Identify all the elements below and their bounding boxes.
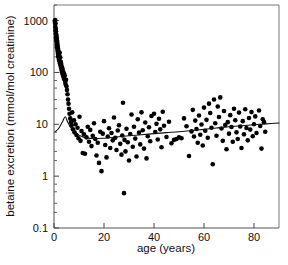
data-point bbox=[99, 169, 104, 174]
data-point bbox=[254, 131, 259, 136]
data-point bbox=[130, 144, 135, 149]
data-point bbox=[247, 116, 252, 121]
data-point bbox=[204, 118, 209, 123]
data-point bbox=[207, 101, 212, 106]
data-point bbox=[240, 119, 245, 124]
data-point bbox=[234, 130, 239, 135]
data-point bbox=[198, 132, 203, 137]
data-point bbox=[179, 136, 184, 141]
data-point bbox=[83, 151, 88, 156]
data-point bbox=[243, 107, 248, 112]
data-point bbox=[88, 128, 93, 133]
data-point bbox=[135, 117, 140, 122]
data-point bbox=[121, 100, 126, 105]
data-point bbox=[67, 106, 72, 111]
data-point bbox=[66, 101, 71, 106]
data-point bbox=[158, 127, 163, 132]
data-point bbox=[75, 125, 80, 130]
data-point bbox=[114, 148, 119, 153]
data-point bbox=[65, 88, 70, 93]
data-point bbox=[222, 109, 227, 114]
data-point bbox=[213, 121, 218, 126]
data-point bbox=[119, 152, 124, 157]
data-point bbox=[200, 143, 205, 148]
data-point bbox=[103, 143, 108, 148]
data-point bbox=[162, 123, 167, 128]
x-axis-major-ticks bbox=[54, 223, 254, 228]
data-point bbox=[197, 113, 202, 118]
data-point bbox=[134, 154, 139, 159]
scatter-plot: 0.11101001000 020406080 age (years) beta… bbox=[0, 0, 288, 265]
data-point bbox=[65, 92, 70, 97]
data-point bbox=[214, 134, 219, 139]
data-point bbox=[187, 154, 192, 159]
data-point bbox=[95, 140, 100, 145]
y-axis-tick-labels: 0.11101001000 bbox=[24, 15, 48, 234]
data-point bbox=[242, 132, 247, 137]
y-tick-label: 100 bbox=[30, 66, 48, 78]
data-point-group bbox=[52, 18, 267, 196]
data-point bbox=[157, 116, 162, 121]
data-point bbox=[115, 128, 120, 133]
data-point bbox=[78, 139, 83, 144]
data-point bbox=[139, 110, 144, 115]
data-point bbox=[109, 131, 114, 136]
data-point bbox=[155, 137, 160, 142]
data-point bbox=[53, 21, 58, 26]
data-point bbox=[164, 135, 169, 140]
data-point bbox=[224, 147, 229, 152]
data-point bbox=[218, 95, 223, 100]
data-point bbox=[232, 106, 237, 111]
data-point bbox=[235, 137, 240, 142]
data-point bbox=[112, 115, 117, 120]
y-axis-title: betaine excretion (mmol/mol creatinine) bbox=[4, 15, 16, 217]
data-point bbox=[192, 134, 197, 139]
data-point bbox=[245, 138, 250, 143]
data-point bbox=[148, 139, 153, 144]
data-point bbox=[209, 125, 214, 130]
y-tick-label: 10 bbox=[36, 118, 48, 130]
data-point bbox=[133, 136, 138, 141]
y-tick-label: 0.1 bbox=[33, 222, 48, 234]
data-point bbox=[94, 153, 99, 158]
data-point bbox=[205, 135, 210, 140]
data-point bbox=[117, 123, 122, 128]
data-point bbox=[129, 112, 134, 117]
data-point bbox=[142, 146, 147, 151]
data-point bbox=[147, 125, 152, 130]
data-point bbox=[225, 120, 230, 125]
data-point bbox=[140, 128, 145, 133]
data-point bbox=[108, 146, 113, 151]
data-point bbox=[215, 104, 220, 109]
data-point bbox=[239, 146, 244, 151]
x-axis-title: age (years) bbox=[137, 242, 195, 254]
data-point bbox=[143, 120, 148, 125]
data-point bbox=[64, 78, 69, 83]
data-point bbox=[154, 122, 159, 127]
figure-container: 0.11101001000 020406080 age (years) beta… bbox=[0, 0, 288, 265]
y-tick-label: 1000 bbox=[24, 15, 48, 27]
data-point bbox=[100, 131, 105, 136]
data-point bbox=[253, 114, 258, 119]
data-point bbox=[250, 134, 255, 139]
data-point bbox=[217, 115, 222, 120]
data-point bbox=[77, 114, 82, 119]
data-point bbox=[220, 139, 225, 144]
data-point bbox=[230, 139, 235, 144]
x-tick-label: 60 bbox=[198, 231, 210, 243]
data-point bbox=[228, 113, 233, 118]
data-point bbox=[92, 121, 97, 126]
data-point bbox=[159, 145, 164, 150]
x-tick-label: 0 bbox=[51, 231, 57, 243]
data-point bbox=[189, 129, 194, 134]
data-point bbox=[257, 108, 262, 113]
data-point bbox=[182, 116, 187, 121]
data-point bbox=[127, 158, 132, 163]
data-point bbox=[132, 124, 137, 129]
x-tick-label: 80 bbox=[248, 231, 260, 243]
data-point bbox=[62, 74, 67, 79]
data-point bbox=[263, 129, 268, 134]
data-point bbox=[208, 111, 213, 116]
data-point bbox=[227, 131, 232, 136]
data-point bbox=[160, 109, 165, 114]
